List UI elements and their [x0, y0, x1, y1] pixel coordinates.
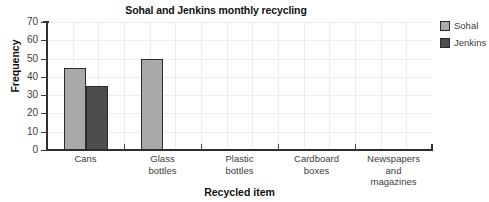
- y-axis-tick: [41, 150, 47, 151]
- x-axis-tick: [201, 144, 202, 150]
- x-axis-title: Recycled item: [47, 186, 432, 198]
- legend: SohalJenkins: [440, 17, 486, 51]
- x-axis-category-label: Glass bottles: [124, 153, 201, 176]
- y-axis-tick: [41, 40, 47, 41]
- gridline-horizontal: [47, 59, 432, 60]
- bar: [86, 86, 108, 150]
- gridline-vertical: [381, 22, 382, 150]
- x-axis-category-label: Cardboard boxes: [278, 153, 355, 176]
- gridline-horizontal: [47, 40, 432, 41]
- x-axis-tick: [355, 144, 356, 150]
- y-axis-tick: [41, 22, 47, 23]
- gridline-vertical: [406, 22, 407, 150]
- x-axis-tick: [124, 144, 125, 150]
- bar: [64, 68, 86, 150]
- x-axis-category-label: Newspapers and magazines: [355, 153, 432, 188]
- x-axis-category-label: Plastic bottles: [201, 153, 278, 176]
- legend-item[interactable]: Sohal: [440, 17, 486, 34]
- gridline-vertical: [252, 22, 253, 150]
- gridline-vertical: [355, 22, 356, 150]
- gridline-horizontal: [47, 22, 432, 23]
- y-axis-tick: [41, 132, 47, 133]
- legend-label: Sohal: [454, 20, 478, 31]
- bar: [141, 59, 163, 150]
- chart-title: Sohal and Jenkins monthly recycling: [0, 4, 432, 16]
- x-axis-right-cap: [431, 144, 433, 151]
- y-axis-tick-label: 0: [8, 145, 38, 155]
- y-axis-title: Frequency: [9, 21, 21, 111]
- gridline-vertical: [124, 22, 125, 150]
- y-axis-tick: [41, 113, 47, 114]
- gridline-vertical: [304, 22, 305, 150]
- y-axis-tick: [41, 59, 47, 60]
- y-axis-tick: [41, 95, 47, 96]
- gridline-vertical: [329, 22, 330, 150]
- y-axis-tick-label: 10: [8, 127, 38, 137]
- y-axis-tick: [41, 77, 47, 78]
- gridline-vertical: [227, 22, 228, 150]
- gridline-vertical: [201, 22, 202, 150]
- legend-swatch-icon: [440, 21, 450, 31]
- gridline-horizontal: [47, 77, 432, 78]
- bar-chart: Sohal and Jenkins monthly recycling 7060…: [0, 0, 489, 202]
- gridline-vertical: [278, 22, 279, 150]
- gridline-vertical: [175, 22, 176, 150]
- legend-swatch-icon: [440, 38, 450, 48]
- legend-label: Jenkins: [454, 37, 486, 48]
- x-axis-tick: [278, 144, 279, 150]
- legend-item[interactable]: Jenkins: [440, 34, 486, 51]
- x-axis-category-label: Cans: [47, 153, 124, 165]
